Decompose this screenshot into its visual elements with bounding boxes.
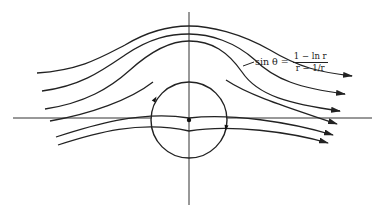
streamline-6 [58, 127, 328, 145]
equation-lhs: sin θ = [255, 57, 289, 67]
streamlines [37, 26, 352, 145]
annotation-leader-line [243, 62, 254, 66]
streamline-4 [50, 82, 153, 121]
circle-flow-markers [152, 95, 229, 131]
diagram-svg [0, 0, 381, 219]
cylinder-center-dot [187, 118, 191, 122]
equation-numerator: 1 − ln r [293, 52, 328, 63]
streamline-equation-label: sin θ = 1 − ln r r − 1/r [255, 52, 328, 72]
equation-denominator: r − 1/r [296, 63, 325, 73]
equation-fraction: 1 − ln r r − 1/r [293, 52, 328, 72]
flow-past-cylinder-diagram: sin θ = 1 − ln r r − 1/r [0, 0, 381, 219]
